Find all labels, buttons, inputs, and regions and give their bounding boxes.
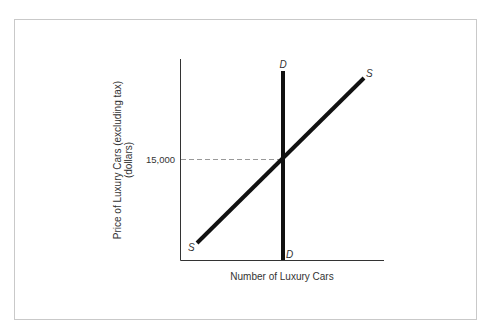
y-axis-title: Price of Luxury Cars (excluding tax) (112, 81, 123, 239)
supply-label-bottom: S (188, 242, 195, 253)
y-tick-label-15000: 15,000 (146, 154, 175, 165)
demand-label-bottom: D (286, 249, 293, 260)
supply-demand-chart: 15,000 D D S S Number of Luxury Cars Pri… (0, 0, 489, 325)
x-axis-title: Number of Luxury Cars (230, 271, 333, 282)
supply-curve (197, 78, 364, 243)
y-axis-unit: (dollars) (123, 142, 134, 178)
supply-label-top: S (366, 68, 373, 79)
demand-label-top: D (279, 59, 286, 70)
